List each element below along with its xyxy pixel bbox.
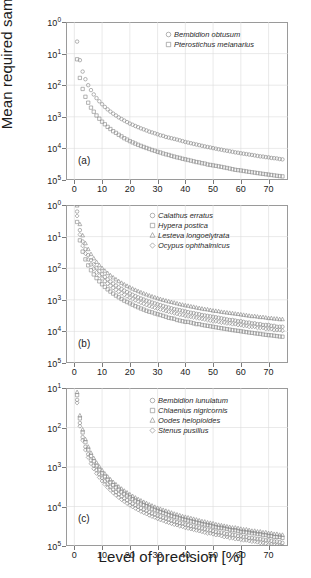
- x-tick-mark: [102, 546, 103, 550]
- triangle-marker-icon: [146, 415, 158, 425]
- y-tick-label: 101: [47, 231, 61, 243]
- panel-b: 105104103102101100 010203040506070 (b) C…: [66, 205, 288, 363]
- y-tick-mark: [62, 467, 66, 468]
- panel-c: 105104103102101 010203040506070 (c) Bemb…: [66, 388, 288, 546]
- x-tick-mark: [158, 546, 159, 550]
- y-tick-mark: [62, 54, 66, 55]
- x-tick-label: 50: [208, 550, 218, 560]
- y-tick-label: 102: [47, 422, 61, 434]
- x-tick-label: 20: [125, 367, 135, 377]
- diamond-marker-icon: [146, 240, 158, 250]
- legend-species-name: Hypera postica: [158, 221, 208, 230]
- panel-c-label: (c): [78, 513, 90, 524]
- x-tick-label: 10: [97, 550, 107, 560]
- y-tick-label: 105: [47, 540, 61, 552]
- x-tick-label: 0: [72, 550, 77, 560]
- y-tick-mark: [62, 148, 66, 149]
- x-tick-label: 10: [97, 367, 107, 377]
- y-tick-label: 103: [47, 111, 61, 123]
- x-tick-label: 40: [180, 550, 190, 560]
- x-tick-mark: [74, 546, 75, 550]
- y-tick-label: 101: [47, 48, 61, 60]
- x-tick-mark: [213, 180, 214, 184]
- x-tick-mark: [185, 180, 186, 184]
- y-tick-mark: [62, 507, 66, 508]
- y-tick-label: 105: [47, 357, 61, 369]
- x-tick-mark: [74, 180, 75, 184]
- y-tick-label: 102: [47, 262, 61, 274]
- circle-marker-icon: [146, 395, 158, 405]
- legend-species-name: Ocypus ophthalmicus: [158, 241, 230, 250]
- x-tick-label: 0: [72, 184, 77, 194]
- y-tick-mark: [62, 388, 66, 389]
- panel-b-label: (b): [78, 338, 90, 349]
- y-tick-mark: [62, 205, 66, 206]
- diamond-marker-icon: [146, 425, 158, 435]
- x-tick-mark: [269, 180, 270, 184]
- panel-a-label: (a): [78, 155, 90, 166]
- legend-item: Pterostichus melanarius: [162, 39, 254, 49]
- legend-species-name: Calathus erratus: [158, 211, 213, 220]
- legend-species-name: Bembidion obtusum: [174, 30, 240, 39]
- y-axis-title: Mean required sample size: [0, 0, 22, 178]
- y-tick-mark: [62, 180, 66, 181]
- x-tick-label: 70: [264, 550, 274, 560]
- y-tick-label: 104: [47, 501, 61, 513]
- x-tick-label: 0: [72, 367, 77, 377]
- x-tick-label: 50: [208, 367, 218, 377]
- x-tick-label: 60: [236, 550, 246, 560]
- y-tick-mark: [62, 300, 66, 301]
- legend-species-name: Bembidion lunulatum: [158, 396, 228, 405]
- legend-species-name: Chlaenius nigricornis: [158, 406, 228, 415]
- x-tick-label: 70: [264, 367, 274, 377]
- y-tick-mark: [62, 428, 66, 429]
- panel-b-legend: Calathus erratusHypera posticaLesteva lo…: [146, 210, 230, 250]
- x-tick-mark: [241, 180, 242, 184]
- x-tick-label: 30: [153, 550, 163, 560]
- x-tick-label: 60: [236, 184, 246, 194]
- figure-container: Mean required sample size Level of preci…: [0, 0, 311, 578]
- x-tick-label: 40: [180, 367, 190, 377]
- x-tick-label: 30: [153, 184, 163, 194]
- y-tick-mark: [62, 331, 66, 332]
- x-tick-mark: [130, 546, 131, 550]
- x-tick-mark: [269, 546, 270, 550]
- legend-item: Bembidion lunulatum: [146, 395, 228, 405]
- square-marker-icon: [162, 39, 174, 49]
- y-tick-label: 102: [47, 79, 61, 91]
- x-tick-label: 20: [125, 550, 135, 560]
- legend-item: Lesteva longoelytrata: [146, 230, 230, 240]
- legend-item: Stenus pusillus: [146, 425, 228, 435]
- x-tick-mark: [185, 363, 186, 367]
- y-tick-mark: [62, 546, 66, 547]
- x-tick-label: 40: [180, 184, 190, 194]
- y-tick-mark: [62, 117, 66, 118]
- legend-species-name: Lesteva longoelytrata: [158, 231, 229, 240]
- legend-item: Ocypus ophthalmicus: [146, 240, 230, 250]
- x-tick-mark: [241, 363, 242, 367]
- x-tick-label: 60: [236, 367, 246, 377]
- legend-species-name: Stenus pusillus: [158, 426, 208, 435]
- x-tick-mark: [269, 363, 270, 367]
- x-tick-mark: [102, 363, 103, 367]
- legend-species-name: Pterostichus melanarius: [174, 40, 254, 49]
- legend-item: Bembidion obtusum: [162, 29, 254, 39]
- x-tick-label: 10: [97, 184, 107, 194]
- x-tick-mark: [158, 363, 159, 367]
- y-tick-label: 100: [47, 16, 61, 28]
- y-tick-label: 100: [47, 199, 61, 211]
- x-tick-mark: [74, 363, 75, 367]
- x-tick-mark: [130, 363, 131, 367]
- x-tick-mark: [185, 546, 186, 550]
- x-tick-label: 50: [208, 184, 218, 194]
- circle-marker-icon: [162, 29, 174, 39]
- panel-c-legend: Bembidion lunulatumChlaenius nigricornis…: [146, 395, 228, 435]
- y-tick-label: 104: [47, 142, 61, 154]
- y-tick-label: 103: [47, 294, 61, 306]
- x-tick-label: 30: [153, 367, 163, 377]
- x-tick-label: 20: [125, 184, 135, 194]
- square-marker-icon: [146, 405, 158, 415]
- y-tick-mark: [62, 237, 66, 238]
- legend-item: Oodes helopioides: [146, 415, 228, 425]
- x-tick-mark: [241, 546, 242, 550]
